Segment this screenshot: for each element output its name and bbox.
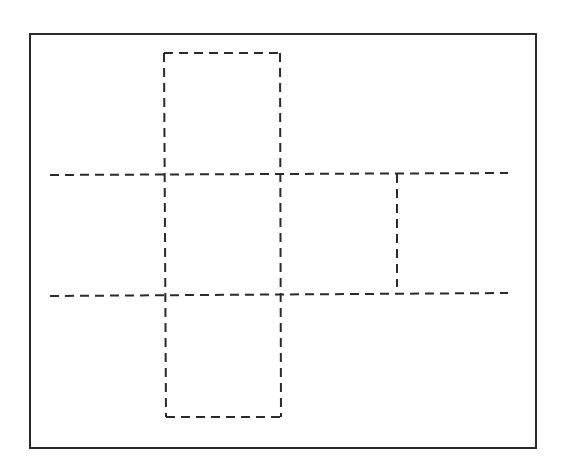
dashed-fold-lines — [50, 53, 508, 417]
dashed-line-upper-horizontal — [50, 173, 508, 175]
cube-net-diagram — [0, 0, 561, 465]
outer-frame — [30, 34, 536, 448]
dashed-line-left-vertical — [164, 53, 166, 417]
dashed-line-right-vertical — [280, 53, 281, 417]
dashed-line-lower-horizontal — [50, 293, 508, 296]
